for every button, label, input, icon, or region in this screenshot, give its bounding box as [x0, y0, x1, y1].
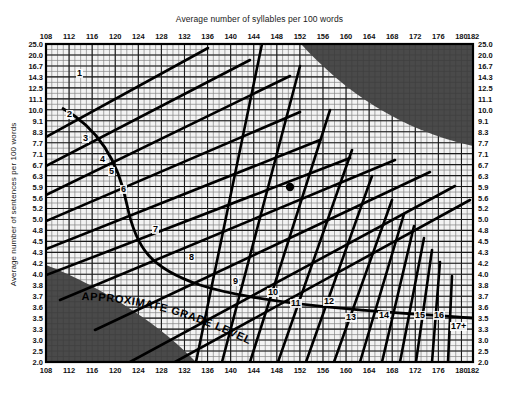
x-tick-bottom-128: 128	[150, 366, 172, 375]
x-tick-bottom-182: 182	[462, 366, 484, 375]
grade-label-7: 7	[152, 225, 159, 234]
y-tick-left-25.0: 25.0	[19, 40, 43, 49]
x-tick-bottom-144: 144	[243, 366, 265, 375]
grade-label-10: 10	[267, 288, 279, 297]
y-tick-right-3.3: 3.3	[478, 325, 502, 334]
y-tick-right-11.1: 11.1	[478, 95, 502, 104]
x-tick-top-136: 136	[197, 32, 219, 41]
y-tick-left-14.3: 14.3	[19, 73, 43, 82]
y-tick-left-5.6: 5.6	[19, 194, 43, 203]
x-tick-bottom-124: 124	[127, 366, 149, 375]
x-tick-bottom-160: 160	[335, 366, 357, 375]
grade-label-4: 4	[99, 155, 106, 164]
y-tick-left-5.2: 5.2	[19, 204, 43, 213]
y-tick-right-7.1: 7.1	[478, 150, 502, 159]
x-tick-top-124: 124	[127, 32, 149, 41]
x-tick-top-140: 140	[220, 32, 242, 41]
x-tick-bottom-120: 120	[104, 366, 126, 375]
fry-graph-canvas: APPROXIMATE GRADE LEVEL	[0, 0, 519, 398]
grade-label-14: 14	[378, 311, 390, 320]
y-tick-right-16.7: 16.7	[478, 62, 502, 71]
y-tick-right-12.5: 12.5	[478, 84, 502, 93]
sample-plot-point	[286, 183, 294, 191]
y-tick-right-5.2: 5.2	[478, 204, 502, 213]
y-tick-left-2.5: 2.5	[19, 347, 43, 356]
x-tick-bottom-136: 136	[197, 366, 219, 375]
y-tick-right-3.6: 3.6	[478, 303, 502, 312]
y-tick-right-2.0: 2.0	[478, 358, 502, 367]
x-tick-bottom-108: 108	[35, 366, 57, 375]
x-tick-top-132: 132	[173, 32, 195, 41]
grade-label-16: 16	[433, 311, 445, 320]
y-tick-left-4.0: 4.0	[19, 270, 43, 279]
grade-label-11: 11	[290, 299, 302, 308]
y-tick-left-3.7: 3.7	[19, 292, 43, 301]
x-tick-top-120: 120	[104, 32, 126, 41]
x-tick-bottom-132: 132	[173, 366, 195, 375]
y-tick-left-6.3: 6.3	[19, 172, 43, 181]
y-tick-left-12.5: 12.5	[19, 84, 43, 93]
y-tick-right-25.0: 25.0	[478, 40, 502, 49]
y-tick-left-20.0: 20.0	[19, 51, 43, 60]
x-tick-top-144: 144	[243, 32, 265, 41]
y-tick-left-7.7: 7.7	[19, 139, 43, 148]
x-tick-top-172: 172	[404, 32, 426, 41]
x-tick-bottom-156: 156	[312, 366, 334, 375]
x-tick-top-160: 160	[335, 32, 357, 41]
y-tick-right-9.1: 9.1	[478, 117, 502, 126]
grade-label-17plus: 17+	[450, 322, 467, 331]
x-tick-bottom-112: 112	[58, 366, 80, 375]
y-tick-right-10.0: 10.0	[478, 106, 502, 115]
y-tick-left-9.1: 9.1	[19, 117, 43, 126]
grade-label-2: 2	[66, 110, 73, 119]
y-tick-right-4.5: 4.5	[478, 237, 502, 246]
grade-label-15: 15	[414, 311, 426, 320]
grade-label-8: 8	[188, 253, 195, 262]
y-tick-right-4.2: 4.2	[478, 259, 502, 268]
y-tick-right-2.5: 2.5	[478, 347, 502, 356]
y-tick-right-6.7: 6.7	[478, 161, 502, 170]
x-tick-top-128: 128	[150, 32, 172, 41]
y-tick-left-16.7: 16.7	[19, 62, 43, 71]
y-tick-left-3.5: 3.5	[19, 314, 43, 323]
y-tick-left-7.1: 7.1	[19, 150, 43, 159]
grade-label-3: 3	[82, 134, 89, 143]
x-tick-top-148: 148	[266, 32, 288, 41]
y-tick-left-4.3: 4.3	[19, 248, 43, 257]
x-tick-top-176: 176	[427, 32, 449, 41]
x-tick-top-168: 168	[381, 32, 403, 41]
y-tick-left-4.5: 4.5	[19, 237, 43, 246]
x-tick-bottom-176: 176	[427, 366, 449, 375]
y-tick-left-3.3: 3.3	[19, 325, 43, 334]
y-tick-left-6.7: 6.7	[19, 161, 43, 170]
y-tick-right-7.7: 7.7	[478, 139, 502, 148]
x-tick-bottom-164: 164	[358, 366, 380, 375]
x-tick-bottom-152: 152	[289, 366, 311, 375]
y-tick-right-14.3: 14.3	[478, 73, 502, 82]
y-tick-left-4.8: 4.8	[19, 226, 43, 235]
y-tick-left-11.1: 11.1	[19, 95, 43, 104]
y-tick-left-5.0: 5.0	[19, 215, 43, 224]
x-tick-bottom-168: 168	[381, 366, 403, 375]
grade-label-1: 1	[76, 69, 83, 78]
y-tick-left-8.3: 8.3	[19, 128, 43, 137]
y-tick-right-6.3: 6.3	[478, 172, 502, 181]
y-tick-right-5.0: 5.0	[478, 215, 502, 224]
x-tick-bottom-140: 140	[220, 366, 242, 375]
x-tick-top-164: 164	[358, 32, 380, 41]
y-tick-left-5.9: 5.9	[19, 183, 43, 192]
y-tick-right-8.3: 8.3	[478, 128, 502, 137]
y-tick-right-3.0: 3.0	[478, 336, 502, 345]
x-tick-top-152: 152	[289, 32, 311, 41]
grade-label-13: 13	[345, 313, 357, 322]
y-tick-right-3.7: 3.7	[478, 292, 502, 301]
y-tick-left-3.0: 3.0	[19, 336, 43, 345]
y-tick-right-4.8: 4.8	[478, 226, 502, 235]
y-tick-right-5.9: 5.9	[478, 183, 502, 192]
y-tick-right-3.5: 3.5	[478, 314, 502, 323]
y-tick-left-10.0: 10.0	[19, 106, 43, 115]
y-tick-right-5.6: 5.6	[478, 194, 502, 203]
y-tick-right-4.0: 4.0	[478, 270, 502, 279]
x-tick-top-112: 112	[58, 32, 80, 41]
y-tick-left-3.8: 3.8	[19, 281, 43, 290]
